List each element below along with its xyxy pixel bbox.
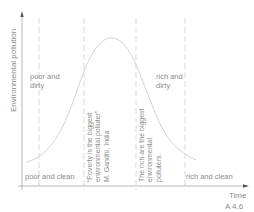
zone-rich-and-dirty-line2: dirty [156, 81, 183, 90]
x-axis-label: Time [229, 191, 246, 200]
zone-rich-and-dirty: rich and dirty [156, 72, 183, 90]
y-axis-label: Environmental pollution [9, 29, 18, 112]
quote-rich-line3: polluters. [155, 108, 163, 182]
quote-rich-line2: environmental [146, 108, 154, 182]
quote-gandhi: “Poverty is the biggest environmental po… [86, 111, 111, 182]
x-axis-arrow-icon [243, 184, 249, 187]
figure-id: A 4.6 [225, 202, 243, 211]
y-axis-arrow-icon [20, 11, 23, 17]
zone-poor-and-dirty-line2: dirty [30, 81, 60, 90]
zone-poor-and-dirty-line1: poor and [30, 72, 60, 81]
zone-rich-and-dirty-line1: rich and [156, 72, 183, 81]
zone-poor-and-clean: poor and clean [25, 172, 75, 181]
zone-rich-and-clean: rich and clean [186, 172, 233, 181]
quote-gandhi-line1: “Poverty is the biggest [86, 111, 94, 182]
quote-rich-line1: The rich are the biggest [138, 108, 146, 182]
quote-gandhi-line3: M. Gandhi, India [103, 111, 111, 182]
quote-gandhi-line2: environmental polluter” [94, 111, 102, 182]
zone-poor-and-dirty: poor and dirty [30, 72, 60, 90]
quote-rich: The rich are the biggest environmental p… [138, 108, 163, 182]
